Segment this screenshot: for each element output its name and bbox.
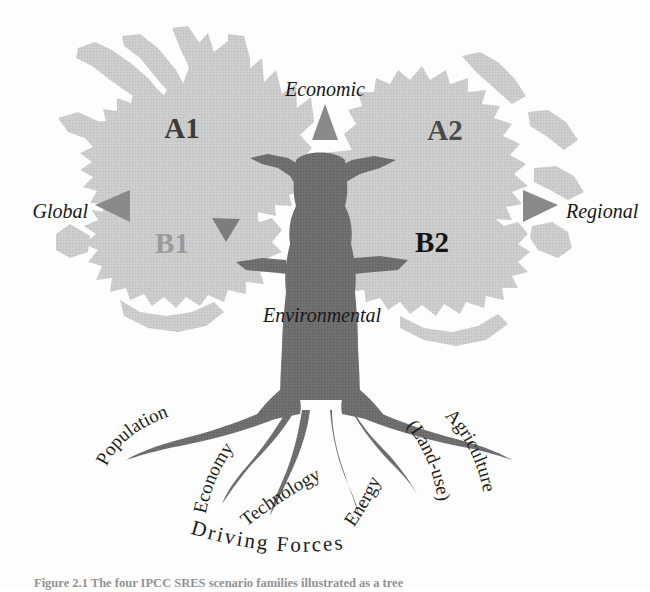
quadrant-label-a1: A1 (164, 112, 199, 144)
driving-forces-label: Driving Forces (189, 515, 346, 556)
figure-caption: Figure 2.1 The four IPCC SRES scenario f… (34, 576, 634, 592)
root-label-economy: Economy (189, 438, 238, 515)
axis-label-economic: Economic (284, 78, 365, 100)
triangle-up-icon (312, 104, 338, 140)
quadrant-label-b2: B2 (415, 226, 449, 258)
axis-label-global: Global (32, 200, 88, 222)
root-label-energy: Energy (340, 473, 385, 530)
quadrant-label-b1: B1 (155, 227, 189, 259)
axis-label-environmental: Environmental (262, 304, 382, 326)
triangle-right-icon (523, 190, 558, 222)
quadrant-label-a2: A2 (427, 114, 462, 146)
axis-label-regional: Regional (565, 200, 639, 223)
root-label-technology: Technology (236, 463, 324, 530)
root-label-land-use: (Land-use) (402, 415, 455, 502)
